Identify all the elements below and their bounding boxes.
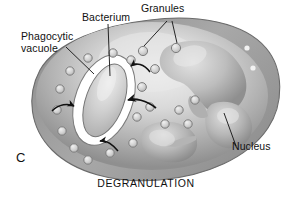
panel-letter: C bbox=[16, 152, 26, 164]
granule bbox=[175, 106, 183, 114]
granule bbox=[66, 67, 74, 75]
granule bbox=[127, 56, 135, 64]
label-nucleus: Nucleus bbox=[232, 141, 271, 153]
granule bbox=[58, 127, 66, 135]
granule bbox=[184, 120, 192, 128]
granule bbox=[70, 144, 78, 152]
label-phagocytic-vacuole-line1: Phagocytic bbox=[21, 30, 73, 42]
granule bbox=[171, 43, 180, 52]
granule bbox=[84, 54, 92, 62]
figure-caption: DEGRANULATION bbox=[0, 178, 292, 190]
label-phagocytic-vacuole: Phagocyticvacuole bbox=[21, 31, 73, 54]
granule bbox=[109, 49, 117, 57]
granule bbox=[56, 85, 64, 93]
granule-small bbox=[250, 65, 255, 70]
label-bacterium: Bacterium bbox=[82, 12, 130, 24]
granule bbox=[129, 139, 137, 147]
granule bbox=[161, 120, 169, 128]
granule bbox=[151, 65, 160, 74]
figure-canvas: Phagocyticvacuole Bacterium Granules Nuc… bbox=[0, 0, 292, 198]
granule bbox=[138, 46, 147, 55]
granule bbox=[84, 156, 92, 164]
granule bbox=[191, 96, 199, 104]
granule bbox=[106, 149, 114, 157]
granule-small bbox=[244, 45, 249, 50]
label-granules: Granules bbox=[141, 3, 184, 15]
granule bbox=[133, 113, 141, 121]
label-phagocytic-vacuole-line2: vacuole bbox=[21, 42, 58, 54]
nucleus-highlight-2 bbox=[217, 108, 239, 124]
granule bbox=[138, 83, 147, 92]
